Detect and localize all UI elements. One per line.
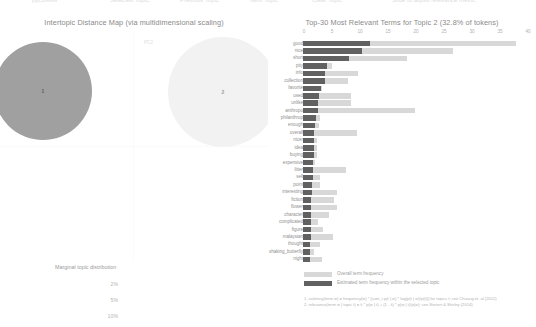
term-row[interactable]: unlike <box>268 100 536 107</box>
term-label[interactable]: figure <box>292 227 303 232</box>
bar-topic-frequency[interactable] <box>303 108 318 114</box>
term-label[interactable]: used <box>293 93 303 98</box>
bar-topic-frequency[interactable] <box>303 56 349 62</box>
term-row[interactable]: idea <box>268 144 536 151</box>
term-label[interactable]: point <box>293 182 303 187</box>
term-label[interactable]: info <box>296 70 303 75</box>
term-label[interactable]: short <box>293 55 303 60</box>
term-label[interactable]: idea <box>294 145 303 150</box>
intertopic-map-title: Intertopic Distance Map (via multidimens… <box>44 18 223 27</box>
bar-topic-frequency[interactable] <box>303 242 310 248</box>
bar-topic-frequency[interactable] <box>303 130 314 136</box>
term-bar-track <box>303 219 527 225</box>
term-bar-track <box>303 100 527 106</box>
topic-bubble-2[interactable]: 2 <box>168 37 268 147</box>
bar-topic-frequency[interactable] <box>303 197 311 203</box>
term-row[interactable]: nice <box>268 47 536 54</box>
term-label[interactable]: sell <box>296 174 303 179</box>
bar-topic-frequency[interactable] <box>303 160 313 166</box>
bar-topic-frequency[interactable] <box>303 123 315 129</box>
term-row[interactable]: collection <box>268 77 536 84</box>
term-row[interactable]: complicated <box>268 219 536 226</box>
term-row[interactable]: sell <box>268 174 536 181</box>
bar-topic-frequency[interactable] <box>303 63 327 69</box>
bar-topic-frequency[interactable] <box>303 205 311 211</box>
term-row[interactable]: pity <box>268 62 536 69</box>
topic-scatter-area[interactable]: 1 2 <box>0 31 268 261</box>
term-row[interactable]: nicer <box>268 137 536 144</box>
term-row[interactable]: flower <box>268 204 536 211</box>
bar-topic-frequency[interactable] <box>303 86 321 92</box>
bar-topic-frequency[interactable] <box>303 138 314 144</box>
term-row[interactable]: fiction <box>268 196 536 203</box>
bar-topic-frequency[interactable] <box>303 219 311 225</box>
term-row[interactable]: malaysian <box>268 233 536 240</box>
term-label[interactable]: character <box>284 212 303 217</box>
bar-topic-frequency[interactable] <box>303 212 311 218</box>
term-label[interactable]: buying <box>290 152 303 157</box>
term-row[interactable]: character <box>268 211 536 218</box>
bar-topic-frequency[interactable] <box>303 145 314 151</box>
term-label[interactable]: favorite <box>288 85 303 90</box>
bar-topic-frequency[interactable] <box>303 100 318 106</box>
term-label[interactable]: fiction <box>291 197 303 202</box>
term-row[interactable]: interesting <box>268 189 536 196</box>
bar-topic-frequency[interactable] <box>303 78 325 84</box>
bar-topic-frequency[interactable] <box>303 93 319 99</box>
term-row[interactable]: short <box>268 55 536 62</box>
term-row[interactable]: used <box>268 92 536 99</box>
bar-topic-frequency[interactable] <box>303 41 370 47</box>
bar-topic-frequency[interactable] <box>303 249 310 255</box>
term-row[interactable]: favorite <box>268 85 536 92</box>
term-row[interactable]: expensive <box>268 159 536 166</box>
bar-topic-frequency[interactable] <box>303 71 325 77</box>
term-label[interactable]: unlike <box>291 100 303 105</box>
term-label[interactable]: nice <box>295 48 303 53</box>
term-label[interactable]: flower <box>291 204 303 209</box>
term-label[interactable]: interesting <box>282 189 303 194</box>
term-label[interactable]: complicated <box>279 219 303 224</box>
bar-topic-frequency[interactable] <box>303 48 362 54</box>
term-row[interactable]: good <box>268 40 536 47</box>
term-label[interactable]: nicer <box>293 137 303 142</box>
term-label[interactable]: enough <box>288 122 303 127</box>
term-label[interactable]: overall <box>290 130 303 135</box>
bar-topic-frequency[interactable] <box>303 115 316 121</box>
term-row[interactable]: info <box>268 70 536 77</box>
term-bar-track <box>303 257 527 263</box>
term-row[interactable]: night <box>268 256 536 263</box>
term-label[interactable]: expensive <box>283 160 303 165</box>
term-label[interactable]: good <box>293 41 303 46</box>
term-row[interactable]: figure <box>268 226 536 233</box>
topic-bubble-1[interactable]: 1 <box>0 42 92 140</box>
bar-topic-frequency[interactable] <box>303 175 313 181</box>
term-row[interactable]: buying <box>268 152 536 159</box>
term-label[interactable]: anthropo <box>285 108 303 113</box>
bar-topic-frequency[interactable] <box>303 182 312 188</box>
bar-topic-frequency[interactable] <box>303 234 311 240</box>
term-label[interactable]: shaking_butterfly <box>269 249 303 254</box>
term-label[interactable]: pity <box>296 63 303 68</box>
term-row[interactable]: overall <box>268 129 536 136</box>
term-label[interactable]: night <box>293 256 303 261</box>
bar-topic-frequency[interactable] <box>303 152 314 158</box>
term-bar-track <box>303 160 527 166</box>
term-row[interactable]: enough <box>268 122 536 129</box>
bar-overall-frequency[interactable] <box>303 108 415 114</box>
bar-topic-frequency[interactable] <box>303 190 312 196</box>
bar-topic-frequency[interactable] <box>303 167 313 173</box>
term-row[interactable]: litter <box>268 166 536 173</box>
term-row[interactable]: thought <box>268 241 536 248</box>
term-bar-track <box>303 227 527 233</box>
bar-topic-frequency[interactable] <box>303 257 310 263</box>
term-row[interactable]: philanthrop <box>268 114 536 121</box>
term-row[interactable]: shaking_butterfly <box>268 248 536 255</box>
term-label[interactable]: malaysian <box>283 234 303 239</box>
term-label[interactable]: litter <box>294 167 303 172</box>
term-label[interactable]: collection <box>284 78 303 83</box>
term-label[interactable]: thought <box>288 241 303 246</box>
bar-topic-frequency[interactable] <box>303 227 311 233</box>
term-row[interactable]: point <box>268 181 536 188</box>
term-row[interactable]: anthropo <box>268 107 536 114</box>
term-label[interactable]: philanthrop <box>281 115 303 120</box>
